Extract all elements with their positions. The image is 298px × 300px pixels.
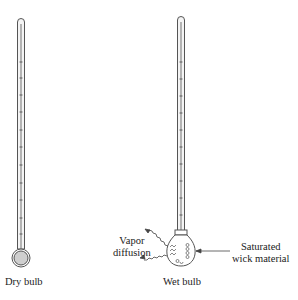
wet-bulb-thermometer xyxy=(167,17,195,267)
dry-bulb-label: Dry bulb xyxy=(5,276,43,288)
vapor-line-2: diffusion xyxy=(113,247,151,259)
vapor-diffusion-label: Vapor diffusion xyxy=(113,235,151,259)
wet-bulb-label: Wet bulb xyxy=(163,276,201,288)
vapor-line-1: Vapor xyxy=(113,235,151,247)
wick-pointer-arrow xyxy=(196,249,230,253)
wick-line-1: Saturated xyxy=(232,241,289,253)
dry-bulb-thermometer xyxy=(12,19,30,268)
wick-line-2: wick material xyxy=(232,253,289,265)
saturated-wick-label: Saturated wick material xyxy=(232,241,289,265)
